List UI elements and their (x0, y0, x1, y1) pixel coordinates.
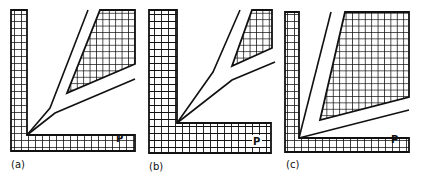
point-label: P (391, 134, 398, 145)
figure: P (a) P (b) P (c) (0, 0, 421, 178)
boundary-line-lower (177, 62, 275, 123)
wedge-grid (320, 12, 409, 120)
panel-c: P (c) (285, 12, 409, 170)
wedge-grid (67, 10, 135, 93)
point-label: P (116, 133, 123, 144)
panel-label: (a) (11, 159, 25, 170)
panel-a: P (a) (11, 10, 135, 170)
wedge-grid (232, 10, 272, 66)
panel-label: (c) (286, 159, 299, 170)
panel-label: (b) (149, 161, 163, 172)
point-label: P (253, 136, 260, 147)
panel-b: P (b) (149, 10, 275, 172)
boundary-line-upper (177, 10, 240, 123)
